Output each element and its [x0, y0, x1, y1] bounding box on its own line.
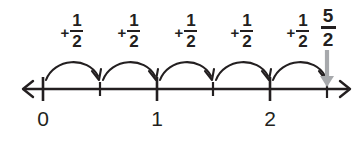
hop-label-1-denominator: 2: [71, 33, 82, 50]
hop-label-1-numerator: 1: [71, 12, 82, 29]
axis-label-1: 1: [151, 107, 163, 130]
hop-arc-group: [46, 62, 328, 80]
hop-label-4: + 1 2: [222, 12, 262, 51]
axis-group: [23, 81, 350, 97]
hop-label-5-fraction: 1 2: [296, 12, 309, 51]
hop-label-3: + 1 2: [166, 12, 206, 51]
axis-label-2: 2: [264, 107, 276, 130]
hop-label-4-denominator: 2: [241, 33, 252, 50]
hop-arc-2: [103, 62, 155, 80]
hop-label-1: + 1 2: [52, 12, 92, 51]
result-label-numerator: 5: [322, 6, 335, 25]
hop-label-2: + 1 2: [109, 12, 149, 51]
result-marker-arrow: [320, 50, 334, 87]
hop-arc-5: [273, 62, 325, 80]
result-label-fraction: 5 2: [321, 6, 336, 49]
hop-label-4-fraction: 1 2: [240, 12, 253, 51]
hop-label-2-denominator: 2: [128, 33, 139, 50]
hop-label-3-denominator: 2: [185, 33, 196, 50]
hop-label-5-numerator: 1: [297, 12, 308, 29]
result-label-denominator: 2: [322, 30, 335, 49]
result-label: 5 2: [314, 6, 342, 49]
hop-arc-4: [216, 62, 268, 80]
hop-arc-1: [46, 62, 98, 80]
hop-label-3-sign: +: [175, 25, 184, 40]
hop-label-4-sign: +: [231, 25, 240, 40]
hop-label-2-sign: +: [118, 25, 127, 40]
hop-label-5-sign: +: [287, 25, 296, 40]
hop-label-5-denominator: 2: [297, 33, 308, 50]
hop-label-3-numerator: 1: [185, 12, 196, 29]
hop-arc-3: [160, 62, 211, 80]
result-marker-arrowhead: [320, 76, 334, 87]
hop-label-5: + 1 2: [278, 12, 318, 51]
axis-label-group: 0 1 2: [37, 107, 276, 130]
hop-label-3-fraction: 1 2: [184, 12, 197, 51]
hop-label-1-fraction: 1 2: [70, 12, 83, 51]
hop-label-2-numerator: 1: [128, 12, 139, 29]
hop-label-1-sign: +: [61, 25, 70, 40]
hop-label-4-numerator: 1: [241, 12, 252, 29]
axis-label-0: 0: [37, 107, 49, 130]
hop-label-2-fraction: 1 2: [127, 12, 140, 51]
number-line-figure: 0 1 2 + 1 2 + 1 2 + 1 2 + 1: [0, 0, 364, 144]
